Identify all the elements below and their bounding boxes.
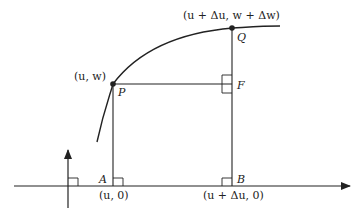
- label-a-coords: (u, 0): [99, 189, 129, 202]
- origin-right-angle-mark: [68, 178, 78, 186]
- right-angle-mark-b: [222, 178, 232, 186]
- right-angle-mark-f-lower: [222, 84, 232, 93]
- label-p: P: [117, 86, 126, 99]
- label-p-coords: (u, w): [74, 70, 106, 83]
- label-b: B: [236, 173, 245, 186]
- diagram-canvas: (u, w) P (u + Δu, w + Δw) Q F A (u, 0) B…: [0, 0, 361, 214]
- point-p-dot: [110, 81, 116, 87]
- label-b-coords: (u + Δu, 0): [203, 189, 264, 202]
- right-angle-mark-a: [113, 178, 123, 186]
- label-a: A: [98, 173, 107, 186]
- label-q: Q: [237, 31, 246, 44]
- point-q-dot: [229, 25, 235, 31]
- right-angle-mark-f-upper: [222, 75, 232, 84]
- label-f: F: [236, 79, 245, 92]
- label-q-coords: (u + Δu, w + Δw): [183, 9, 280, 22]
